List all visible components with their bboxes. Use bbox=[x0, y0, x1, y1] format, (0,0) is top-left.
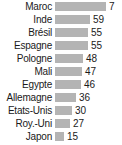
value-label: 48 bbox=[83, 53, 97, 64]
bar-track: 48 bbox=[55, 52, 122, 65]
value-label: 55 bbox=[88, 27, 102, 38]
horizontal-bar-chart: Maroc7Inde59Brésil55Espagne55Pologne48Ma… bbox=[0, 0, 122, 145]
chart-row: Allemagne36 bbox=[0, 91, 122, 104]
chart-row: Japon15 bbox=[0, 130, 122, 143]
bar bbox=[55, 2, 106, 11]
chart-row: Maroc7 bbox=[0, 0, 122, 13]
category-label: Allemagne bbox=[0, 92, 55, 103]
bar bbox=[55, 106, 72, 115]
bar-track: 27 bbox=[55, 117, 122, 130]
value-label: 59 bbox=[90, 14, 104, 25]
category-label: Egypte bbox=[0, 79, 55, 90]
bar-track: 46 bbox=[55, 78, 122, 91]
chart-row: Brésil55 bbox=[0, 26, 122, 39]
category-label: Maroc bbox=[0, 1, 55, 12]
chart-row: Espagne55 bbox=[0, 39, 122, 52]
value-label: 46 bbox=[81, 79, 95, 90]
value-label: 36 bbox=[76, 92, 90, 103]
bar bbox=[55, 93, 76, 102]
bar-track: 55 bbox=[55, 26, 122, 39]
category-label: Pologne bbox=[0, 53, 55, 64]
bar bbox=[55, 67, 82, 76]
chart-row: Pologne48 bbox=[0, 52, 122, 65]
value-label: 7 bbox=[106, 1, 115, 12]
chart-row: Roy.-Uni27 bbox=[0, 117, 122, 130]
value-label: 27 bbox=[70, 118, 84, 129]
value-label: 15 bbox=[64, 131, 78, 142]
chart-row: Etats-Unis30 bbox=[0, 104, 122, 117]
category-label: Inde bbox=[0, 14, 55, 25]
bar-track: 59 bbox=[55, 13, 122, 26]
bar bbox=[55, 15, 90, 24]
category-label: Etats-Unis bbox=[0, 105, 55, 116]
bar bbox=[55, 132, 64, 141]
bar bbox=[55, 119, 70, 128]
bar-track: 15 bbox=[55, 130, 122, 143]
bar bbox=[55, 54, 83, 63]
bar-track: 55 bbox=[55, 39, 122, 52]
category-label: Japon bbox=[0, 131, 55, 142]
category-label: Roy.-Uni bbox=[0, 118, 55, 129]
value-label: 47 bbox=[82, 66, 96, 77]
bar-track: 47 bbox=[55, 65, 122, 78]
bar-track: 36 bbox=[55, 91, 122, 104]
bar bbox=[55, 41, 88, 50]
value-label: 55 bbox=[88, 40, 102, 51]
bar-track: 7 bbox=[55, 0, 122, 13]
bar bbox=[55, 28, 88, 37]
category-label: Mali bbox=[0, 66, 55, 77]
chart-row: Inde59 bbox=[0, 13, 122, 26]
chart-row: Mali47 bbox=[0, 65, 122, 78]
chart-row: Egypte46 bbox=[0, 78, 122, 91]
value-label: 30 bbox=[72, 105, 86, 116]
bar-track: 30 bbox=[55, 104, 122, 117]
category-label: Brésil bbox=[0, 27, 55, 38]
bar bbox=[55, 80, 81, 89]
category-label: Espagne bbox=[0, 40, 55, 51]
